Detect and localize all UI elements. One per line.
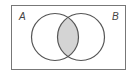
set-b-label: B bbox=[112, 11, 119, 22]
venn-diagram: A B bbox=[0, 0, 132, 75]
set-a-label: A bbox=[18, 11, 26, 22]
